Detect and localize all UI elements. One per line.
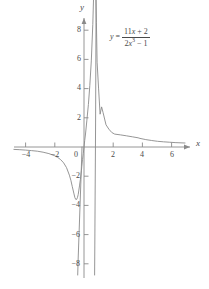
equation-numerator: 11x + 2 <box>122 27 150 36</box>
x-tick-label-neg4: −4 <box>19 151 33 159</box>
y-tick-label-neg8: −8 <box>65 260 80 268</box>
x-tick-label-4: 4 <box>137 151 147 159</box>
y-axis-arrowhead <box>82 18 87 24</box>
y-tick-label-neg2: −2 <box>65 172 80 180</box>
fraction-bar <box>122 37 150 38</box>
y-tick-label-neg6: −6 <box>65 231 80 239</box>
curve-right-branch <box>96 0 185 143</box>
denominator-exponent: 3 <box>132 37 135 43</box>
y-axis-label: y <box>80 3 84 12</box>
x-tick-label-neg2: −2 <box>48 151 62 159</box>
y-tick-label-4: 4 <box>71 84 81 92</box>
equation-fraction: 11x + 2 2x3 − 1 <box>122 27 150 48</box>
denominator-rest: − 1 <box>137 39 148 48</box>
graph-plot-area <box>0 0 209 289</box>
y-tick-label-8: 8 <box>71 26 81 34</box>
y-tick-label-6: 6 <box>71 55 81 63</box>
numerator-variable: x <box>132 27 136 36</box>
curve-upper-asymptote-branch <box>95 0 96 275</box>
numerator-coefficient: 11 <box>124 27 132 36</box>
x-tick-label-0: 0 <box>71 151 81 159</box>
function-curve-group <box>14 0 185 275</box>
y-tick-label-2: 2 <box>71 114 81 122</box>
numerator-rest: + 2 <box>137 27 148 36</box>
x-axis-arrowhead <box>184 145 190 150</box>
function-graph-figure: y x −4 −2 0 2 4 6 8 6 4 2 −2 −4 −6 −8 y=… <box>0 0 209 289</box>
curve-lower-asymptote-branch <box>78 147 82 275</box>
x-tick-label-2: 2 <box>108 151 118 159</box>
equation-annotation: y= 11x + 2 2x3 − 1 <box>110 27 150 48</box>
equation-equals-sign: = <box>114 32 123 41</box>
y-tick-label-neg4: −4 <box>65 201 80 209</box>
x-axis-ticks <box>26 143 172 148</box>
x-axis-label: x <box>196 139 200 148</box>
x-tick-label-6: 6 <box>167 151 177 159</box>
axes-group <box>14 18 190 278</box>
equation-denominator: 2x3 − 1 <box>122 39 150 48</box>
